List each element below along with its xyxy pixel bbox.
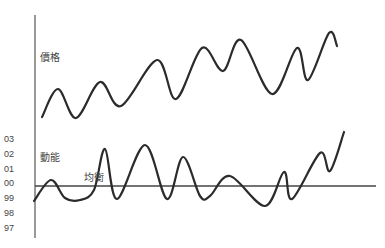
price-momentum-diagram: [0, 0, 385, 248]
y-tick-01: 01: [4, 164, 14, 174]
momentum-label: 動能: [40, 152, 60, 164]
y-tick-03: 03: [4, 134, 14, 144]
price-curve: [42, 32, 337, 118]
y-tick-97: 97: [4, 223, 14, 233]
momentum-curve: [34, 132, 344, 206]
price-label: 價格: [40, 52, 60, 64]
y-tick-00: 00: [4, 178, 14, 188]
y-tick-02: 02: [4, 149, 14, 159]
equilibrium-label: 均衡: [84, 172, 104, 184]
y-tick-98: 98: [4, 208, 14, 218]
y-tick-99: 99: [4, 193, 14, 203]
